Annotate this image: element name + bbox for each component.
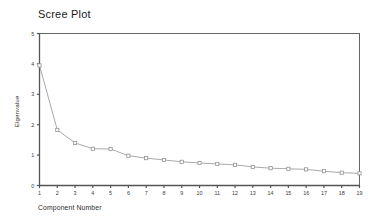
x-tick-label: 18 [339,190,345,196]
data-point-marker [162,158,165,161]
y-tick-label: 0 [31,183,34,189]
data-point-marker [198,161,201,164]
y-tick-label: 1 [31,152,34,158]
data-point-marker [127,154,130,157]
data-point-marker [340,171,343,174]
data-point-marker [38,64,41,67]
x-tick-label: 9 [180,190,183,196]
data-point-marker [322,170,325,173]
x-tick-label: 3 [74,190,77,196]
x-tick-label: 6 [127,190,130,196]
x-tick-label: 4 [91,190,94,196]
x-tick-label: 17 [321,190,327,196]
y-tick-label: 3 [31,91,34,97]
x-tick-label: 8 [162,190,165,196]
x-tick-label: 13 [250,190,256,196]
data-point-marker [73,141,76,144]
x-tick-label: 1 [38,190,41,196]
x-tick-label: 14 [268,190,274,196]
y-tick-label: 4 [31,61,34,67]
data-point-marker [287,167,290,170]
data-point-marker [180,160,183,163]
data-point-marker [305,168,308,171]
x-tick-label: 15 [285,190,291,196]
y-tick-label: 5 [31,31,34,37]
data-point-marker [109,147,112,150]
x-tick-label: 7 [145,190,148,196]
x-tick-label: 2 [56,190,59,196]
x-tick-label: 5 [109,190,112,196]
data-point-marker [269,167,272,170]
y-tick-label: 2 [31,122,34,128]
data-point-marker [56,128,59,131]
data-point-marker [251,165,254,168]
data-point-marker [233,163,236,166]
scree-plot-figure: Scree Plot Eigenvalue Component Number 0… [0,0,368,221]
data-point-marker [91,147,94,150]
x-tick-label: 10 [197,190,203,196]
data-point-marker [358,172,361,175]
data-point-marker [216,162,219,165]
data-point-marker [145,157,148,160]
x-tick-label: 11 [214,190,220,196]
y-axis-ticks: 012345 [31,31,39,189]
plot-area: 012345 12345678910111213141516171819 [0,0,368,221]
eigenvalue-line [40,65,360,173]
x-tick-label: 19 [357,190,363,196]
x-tick-label: 16 [303,190,309,196]
eigenvalue-markers [38,64,361,175]
x-tick-label: 12 [232,190,238,196]
x-axis-ticks: 12345678910111213141516171819 [38,186,363,197]
